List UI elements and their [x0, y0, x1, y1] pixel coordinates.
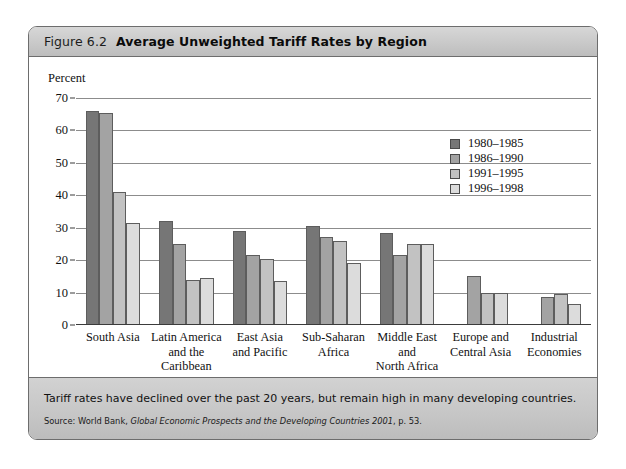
bar [421, 244, 435, 325]
y-axis-unit-label: Percent [48, 71, 85, 86]
x-axis-label-line: Economies [511, 345, 597, 360]
bar-group [159, 98, 213, 325]
bar-group [527, 98, 581, 325]
y-tick-label-70: 70 [56, 91, 69, 106]
chart-plot-region: Percent 010203040506070 South AsiaLatin … [29, 58, 597, 378]
bar-group [453, 98, 507, 325]
bar [347, 263, 361, 325]
bar [467, 276, 481, 325]
bar [200, 278, 214, 325]
bar-group [233, 98, 287, 325]
bar [86, 111, 100, 325]
y-tick-mark-60 [70, 130, 75, 131]
chart-legend: 1980–19851986–19901991–19951996–1998 [450, 136, 570, 196]
x-axis-category-labels: South AsiaLatin Americaand theCaribbeanE… [76, 330, 591, 376]
figure-title: Average Unweighted Tariff Rates by Regio… [116, 34, 427, 49]
bar [333, 241, 347, 325]
figure-card: Figure 6.2 Average Unweighted Tariff Rat… [28, 26, 598, 440]
legend-label: 1996–1998 [468, 181, 523, 196]
bar [159, 221, 173, 325]
y-tick-mark-10 [70, 292, 75, 293]
bar [380, 233, 394, 325]
x-axis-label-line: Caribbean [144, 359, 230, 374]
bar-group [86, 98, 140, 325]
bar [568, 304, 582, 325]
y-tick-mark-0 [70, 325, 75, 326]
footer-caption: Tariff rates have declined over the past… [44, 392, 583, 405]
bar [541, 297, 555, 325]
bar [274, 281, 288, 325]
bar [306, 226, 320, 325]
bar [186, 280, 200, 325]
legend-item: 1986–1990 [450, 151, 570, 166]
y-tick-mark-70 [70, 98, 75, 99]
plot-area: 010203040506070 [76, 98, 591, 325]
legend-label: 1980–1985 [468, 136, 523, 151]
legend-swatch [450, 139, 460, 149]
y-tick-mark-50 [70, 162, 75, 163]
bar-group [306, 98, 360, 325]
y-tick-label-10: 10 [56, 285, 69, 300]
bar [113, 192, 127, 325]
bar [233, 231, 247, 325]
figure-number: Figure 6.2 [44, 34, 107, 49]
legend-swatch [450, 154, 460, 164]
legend-item: 1991–1995 [450, 166, 570, 181]
bar [99, 113, 113, 325]
y-tick-mark-30 [70, 227, 75, 228]
legend-swatch [450, 169, 460, 179]
y-tick-label-30: 30 [56, 220, 69, 235]
bar [173, 244, 187, 325]
source-suffix: , p. 53. [393, 416, 422, 426]
figure-header: Figure 6.2 Average Unweighted Tariff Rat… [29, 27, 597, 57]
x-axis-label-line: North Africa [364, 359, 450, 374]
legend-item: 1980–1985 [450, 136, 570, 151]
x-axis-label: IndustrialEconomies [511, 330, 597, 359]
bar [320, 237, 334, 325]
legend-swatch [450, 184, 460, 194]
legend-label: 1986–1990 [468, 151, 523, 166]
figure-footer: Tariff rates have declined over the past… [29, 377, 597, 439]
bar [126, 223, 140, 325]
legend-label: 1991–1995 [468, 166, 523, 181]
bar [260, 259, 274, 325]
source-prefix: Source: World Bank, [44, 416, 128, 426]
x-axis-label-line: Industrial [511, 330, 597, 345]
footer-source: Source: World Bank, Global Economic Pros… [44, 416, 583, 426]
legend-item: 1996–1998 [450, 181, 570, 196]
source-title: Global Economic Prospects and the Develo… [130, 416, 393, 426]
bar [246, 255, 260, 325]
x-axis-baseline [76, 324, 591, 326]
y-tick-label-20: 20 [56, 253, 69, 268]
bar [481, 293, 495, 325]
y-tick-label-0: 0 [62, 318, 68, 333]
y-tick-mark-40 [70, 195, 75, 196]
bar [494, 293, 508, 325]
y-tick-label-60: 60 [56, 123, 69, 138]
bar [554, 294, 568, 325]
bar-group [380, 98, 434, 325]
y-tick-mark-20 [70, 260, 75, 261]
y-tick-label-40: 40 [56, 188, 69, 203]
bar [393, 255, 407, 325]
y-tick-label-50: 50 [56, 155, 69, 170]
bar [407, 244, 421, 325]
